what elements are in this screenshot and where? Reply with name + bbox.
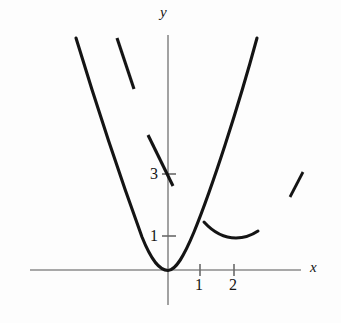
small-concave-arc [204,222,258,238]
x-tick-label-2: 2 [229,277,237,293]
y-axis-label: y [160,5,167,20]
x-tick-label-1: 1 [195,277,203,293]
x-axis-label: x [310,260,317,275]
lower-right-segment [290,172,303,197]
graph-figure: y x 1 2 1 3 [0,0,341,323]
upper-left-tangent-segment [117,38,134,89]
coordinate-plot [0,0,341,323]
y-tick-label-3: 3 [150,166,158,182]
y-tick-label-1: 1 [150,228,158,244]
